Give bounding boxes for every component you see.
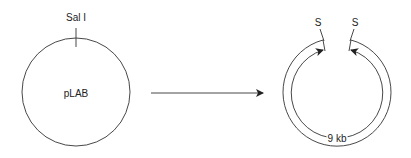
s-site-tick-right [350,29,354,41]
diagram-canvas [0,0,411,158]
linearized-plasmid [283,29,391,146]
s-label-right: S [352,17,359,28]
right-strand-arrow [337,50,383,138]
plab-label: pLAB [64,88,88,99]
s-label-left: S [315,17,322,28]
size-label: 9 kb [327,133,348,144]
left-strand-arrow [291,50,337,138]
s-site-tick-left [320,29,324,41]
sal-i-label: Sal I [66,12,86,23]
